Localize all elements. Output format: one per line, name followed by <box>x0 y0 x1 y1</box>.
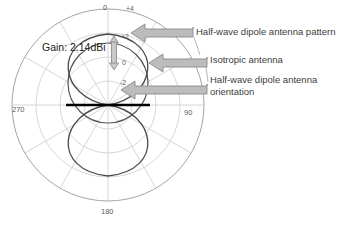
block-arrow-pattern <box>131 24 193 42</box>
radial-tick-plus4: +4 <box>126 5 134 12</box>
radial-tick-minus2: -2 <box>120 79 126 86</box>
callout-label-orientation: Half-wave dipole antenna orientation <box>210 74 317 97</box>
radial-tick-zero: 0 <box>122 59 126 66</box>
block-arrow-isotropic <box>149 54 207 72</box>
radial-tick-plus2: +2 <box>121 33 129 40</box>
angle-tick-0: 0 <box>103 3 107 12</box>
angle-tick-90: 90 <box>184 108 192 117</box>
block-arrow-orientation <box>121 81 207 99</box>
gain-double-arrow <box>110 36 119 70</box>
antenna-pattern-figure: +4 +2 0 -2 0 90 180 270 Gain: 2.14dBi Ha… <box>0 0 358 227</box>
angle-tick-180: 180 <box>101 207 114 216</box>
gain-label: Gain: 2.14dBi <box>42 41 106 53</box>
callout-label-pattern: Half-wave dipole antenna pattern <box>196 26 335 38</box>
callout-arrows <box>121 24 207 99</box>
callout-label-isotropic: Isotropic antenna <box>210 54 283 66</box>
angle-tick-270: 270 <box>12 105 25 114</box>
